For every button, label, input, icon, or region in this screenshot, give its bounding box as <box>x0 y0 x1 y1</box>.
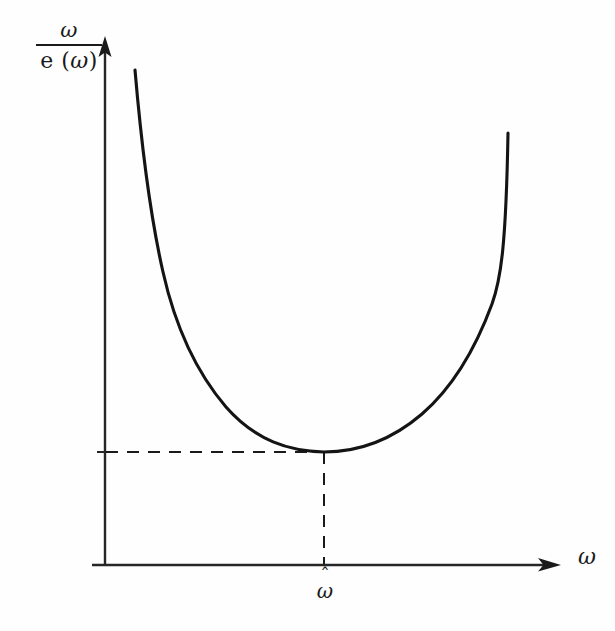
plot-area <box>0 0 615 631</box>
omega-symbol: ω <box>308 581 342 601</box>
figure-canvas: ω e (ω) ω ˆ ω <box>0 0 615 631</box>
y-axis-group <box>99 36 112 565</box>
denominator-prefix: e ( <box>40 48 70 73</box>
y-axis-label: ω e (ω) <box>36 20 102 72</box>
x-axis-label: ω <box>578 546 596 568</box>
omega-hat-tick-label: ˆ ω <box>308 570 342 601</box>
y-axis-label-denominator: e (ω) <box>36 46 102 72</box>
cost-curve <box>135 70 508 452</box>
denominator-suffix: ) <box>89 48 98 73</box>
y-axis-label-numerator: ω <box>36 20 102 44</box>
denominator-symbol: ω <box>70 48 88 73</box>
